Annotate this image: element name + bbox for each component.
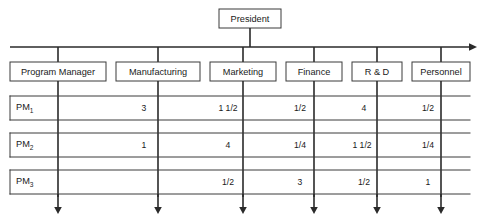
- matrix-row-pm3: PM3 1/2 3 1/2 1: [10, 170, 470, 194]
- matrix-row-pm1: PM1 3 1 1/2 1/2 4 1/2: [10, 96, 470, 120]
- bus-arrow-icon: [469, 43, 477, 51]
- down-arrow-icon-program-manager: [54, 207, 62, 214]
- president-node: President: [219, 9, 281, 28]
- down-arrow-icon-personnel: [437, 207, 445, 214]
- row-label-pm3: PM3: [16, 177, 34, 188]
- row-label-pm1: PM1: [16, 103, 34, 114]
- department-node-marketing: Marketing: [210, 47, 276, 81]
- department-node-manufacturing: Manufacturing: [116, 47, 200, 81]
- department-label-finance: Finance: [298, 67, 331, 77]
- president-label: President: [231, 14, 270, 24]
- matrix-organization-diagram: President Program Manager Manufacturing …: [0, 0, 480, 220]
- cell-pm1-finance: 1/2: [294, 103, 306, 113]
- down-arrow-icon-marketing: [239, 207, 247, 214]
- cell-pm3-personnel: 1: [426, 177, 431, 187]
- department-label-marketing: Marketing: [223, 67, 263, 77]
- column-terminator-arrows: [54, 194, 445, 214]
- cell-pm2-manufacturing: 1: [142, 140, 147, 150]
- diagram-canvas: President Program Manager Manufacturing …: [0, 0, 480, 220]
- department-label-program-manager: Program Manager: [21, 67, 95, 77]
- down-arrow-icon-finance: [310, 207, 318, 214]
- down-arrow-icon-rd: [373, 207, 381, 214]
- cell-pm1-personnel: 1/2: [422, 103, 434, 113]
- department-label-manufacturing: Manufacturing: [129, 67, 187, 77]
- cell-pm2-marketing: 4: [226, 140, 231, 150]
- department-node-rd: R & D: [352, 47, 402, 81]
- department-label-personnel: Personnel: [420, 67, 461, 77]
- cell-pm3-finance: 3: [298, 177, 303, 187]
- department-node-personnel: Personnel: [412, 47, 470, 81]
- cell-pm2-rd: 1 1/2: [352, 140, 371, 150]
- cell-pm3-marketing: 1/2: [222, 177, 234, 187]
- cell-pm3-rd: 1/2: [358, 177, 370, 187]
- cell-pm1-marketing: 1 1/2: [218, 103, 237, 113]
- cell-pm1-rd: 4: [362, 103, 367, 113]
- department-node-program-manager: Program Manager: [10, 47, 106, 81]
- down-arrow-icon-manufacturing: [154, 207, 162, 214]
- matrix-row-pm2: PM2 1 4 1/4 1 1/2 1/4: [10, 133, 470, 157]
- row-label-pm2: PM2: [16, 140, 34, 151]
- cell-pm1-manufacturing: 3: [142, 103, 147, 113]
- department-node-finance: Finance: [286, 47, 342, 81]
- cell-pm2-finance: 1/4: [294, 140, 306, 150]
- cell-pm2-personnel: 1/4: [422, 140, 434, 150]
- department-label-rd: R & D: [365, 67, 390, 77]
